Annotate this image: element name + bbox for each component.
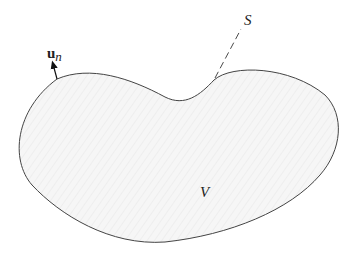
normal-vector-label: un: [47, 45, 62, 64]
diagram-canvas: un S V: [0, 0, 358, 253]
surface-label: S: [244, 12, 252, 28]
volume-region-shape: [19, 70, 338, 242]
normal-vector-arrow: [53, 64, 57, 79]
